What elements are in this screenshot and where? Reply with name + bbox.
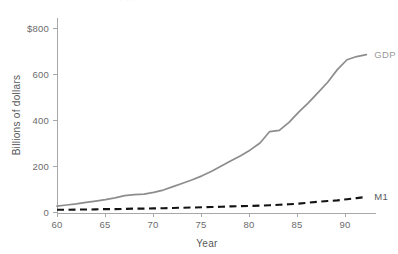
y-axis-tick-labels: $800 600 400 200 0 [27, 23, 49, 218]
x-tick-label: 75 [196, 219, 207, 230]
x-axis-ticks [57, 213, 345, 217]
y-axis-title: Billions of dollars [11, 75, 22, 156]
chart-figure: · ··· $800 600 400 200 0 [0, 0, 398, 254]
y-tick-label: 0 [44, 207, 49, 218]
x-tick-label: 85 [292, 219, 303, 230]
line-chart-canvas: $800 600 400 200 0 60 65 70 75 80 85 90 [0, 0, 398, 254]
x-tick-label: 80 [244, 219, 255, 230]
x-tick-label: 60 [52, 219, 63, 230]
y-tick-label: 400 [33, 115, 49, 126]
series-label-m1: M1 [374, 191, 388, 202]
series-line-m1 [57, 197, 366, 210]
x-tick-label: 70 [148, 219, 159, 230]
y-tick-label: $800 [27, 23, 49, 34]
x-axis-title: Year [196, 238, 218, 249]
x-axis-tick-labels: 60 65 70 75 80 85 90 [52, 219, 351, 230]
y-tick-label: 600 [33, 69, 49, 80]
x-tick-label: 90 [340, 219, 351, 230]
y-axis-ticks [53, 28, 57, 212]
series-line-gdp [57, 55, 366, 206]
y-tick-label: 200 [33, 161, 49, 172]
x-tick-label: 65 [100, 219, 111, 230]
series-label-gdp: GDP [374, 49, 396, 60]
